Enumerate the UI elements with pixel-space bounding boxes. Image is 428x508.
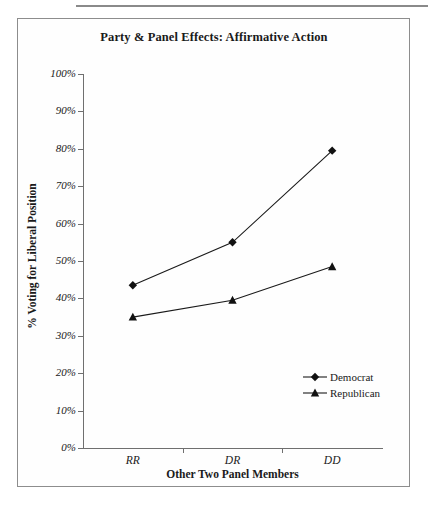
y-tick-mark (78, 448, 83, 449)
y-tick-mark (78, 298, 83, 299)
y-tick-label: 20% (34, 367, 76, 378)
x-tick-label-rr: RR (83, 454, 183, 466)
triangle-marker-icon (302, 385, 328, 401)
y-axis-line (83, 74, 84, 449)
legend-label: Republican (330, 386, 380, 400)
diamond-marker-icon (302, 369, 328, 385)
y-tick-label: 10% (34, 405, 76, 416)
y-tick-label: 50% (34, 255, 76, 266)
legend-label: Democrat (330, 370, 373, 384)
figure-frame (17, 18, 410, 487)
y-tick-label: 0% (34, 442, 76, 453)
x-axis-title: Other Two Panel Members (83, 468, 382, 480)
chart-title: Party & Panel Effects: Affirmative Actio… (0, 30, 428, 45)
y-tick-mark (78, 74, 83, 75)
x-tick-label-dr: DR (183, 454, 283, 466)
x-axis-line (83, 448, 383, 449)
legend-item-republican[interactable]: Republican (302, 385, 406, 401)
y-tick-mark (78, 261, 83, 262)
y-tick-mark (78, 373, 83, 374)
y-tick-label: 40% (34, 292, 76, 303)
y-tick-label: 30% (34, 330, 76, 341)
y-tick-label: 90% (34, 105, 76, 116)
y-tick-label: 100% (34, 68, 76, 79)
y-tick-mark (78, 336, 83, 337)
x-tick-mark (282, 448, 283, 453)
y-tick-mark (78, 111, 83, 112)
y-tick-label: 60% (34, 218, 76, 229)
legend-item-democrat[interactable]: Democrat (302, 369, 406, 385)
x-tick-label-dd: DD (282, 454, 382, 466)
y-tick-label: 70% (34, 180, 76, 191)
chart-legend: DemocratRepublican (302, 369, 406, 401)
y-tick-mark (78, 224, 83, 225)
y-tick-mark (78, 149, 83, 150)
x-tick-mark (183, 448, 184, 453)
page-top-rule (76, 5, 428, 7)
y-tick-label: 80% (34, 143, 76, 154)
y-tick-mark (78, 186, 83, 187)
y-tick-mark (78, 411, 83, 412)
